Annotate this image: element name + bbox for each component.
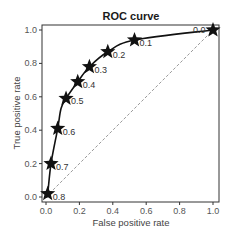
roc-chart: ROC curve 0.00.20.40.60.81.0 0.00.20.40.… xyxy=(0,0,231,237)
x-tick-label: 0.2 xyxy=(73,206,86,216)
threshold-label: 0.2 xyxy=(113,50,126,60)
y-axis-label: True positive rate xyxy=(11,76,22,149)
y-axis-ticks: 0.00.20.40.60.81.0 xyxy=(24,25,42,202)
y-tick-label: 0.2 xyxy=(24,159,37,169)
x-axis-label: False positive rate xyxy=(92,217,169,228)
threshold-label: 0.3 xyxy=(94,65,107,75)
y-tick-label: 1.0 xyxy=(24,25,37,35)
threshold-label: 0.5 xyxy=(71,96,84,106)
x-tick-label: 0.8 xyxy=(173,206,186,216)
chance-diagonal xyxy=(46,30,213,197)
star-marker-icon xyxy=(205,22,220,36)
threshold-label: 0.4 xyxy=(83,80,96,90)
x-tick-label: 0.0 xyxy=(40,206,53,216)
x-tick-label: 0.6 xyxy=(140,206,153,216)
threshold-label: 0.8 xyxy=(53,192,66,202)
x-tick-label: 0.4 xyxy=(107,206,120,216)
y-tick-label: 0.0 xyxy=(24,192,37,202)
y-tick-label: 0.6 xyxy=(24,92,37,102)
chart-title: ROC curve xyxy=(103,10,160,22)
y-tick-label: 0.8 xyxy=(24,58,37,68)
x-axis-ticks: 0.00.20.40.60.81.0 xyxy=(40,202,220,216)
x-tick-label: 1.0 xyxy=(207,206,220,216)
threshold-label: 0.0 xyxy=(193,25,206,35)
threshold-label: 0.6 xyxy=(63,127,76,137)
plot-frame xyxy=(42,25,219,202)
threshold-markers xyxy=(40,22,221,200)
threshold-label: 0.1 xyxy=(140,38,153,48)
threshold-label: 0.7 xyxy=(56,162,69,172)
y-tick-label: 0.4 xyxy=(24,125,37,135)
